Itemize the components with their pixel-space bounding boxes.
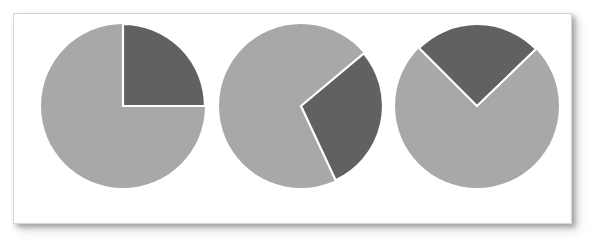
pie-chart-3-svg [394, 23, 560, 189]
figure-root [0, 0, 593, 243]
pie-slices-3 [395, 24, 559, 188]
pie-chart-2-svg [218, 23, 384, 189]
pie-chart-row [14, 14, 571, 223]
pie-chart-1-svg [40, 23, 206, 189]
pie-chart-1 [40, 23, 206, 189]
pie-chart-3 [394, 23, 560, 189]
chart-panel [13, 13, 572, 224]
pie-slices-1 [41, 24, 205, 188]
pie-chart-2 [218, 23, 384, 189]
pie-slice-highlighted [123, 24, 205, 106]
pie-slices-2 [219, 24, 383, 188]
